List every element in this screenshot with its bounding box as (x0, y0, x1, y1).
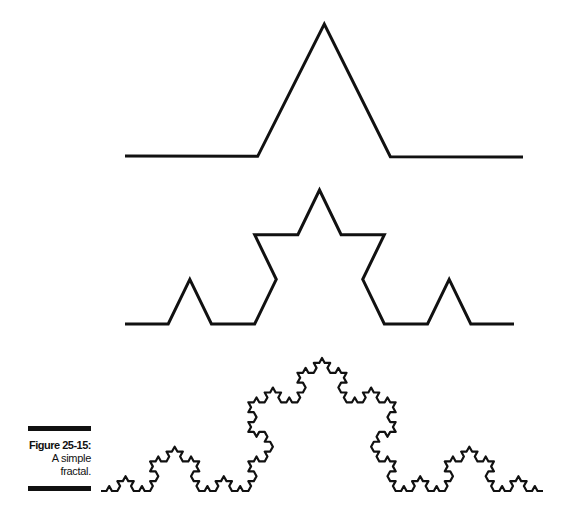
caption-line-2: fractal. (28, 465, 91, 478)
caption-top-rule (28, 426, 91, 431)
figure-caption: Figure 25-15: A simple fractal. (28, 426, 91, 491)
figure-label: Figure 25-15: (28, 439, 91, 452)
caption-line-1: A simple (28, 452, 91, 465)
koch-curve-level-4 (101, 358, 543, 491)
koch-curve-level-2 (125, 190, 514, 324)
koch-curve-level-1 (125, 24, 523, 157)
caption-bottom-rule (28, 486, 91, 491)
